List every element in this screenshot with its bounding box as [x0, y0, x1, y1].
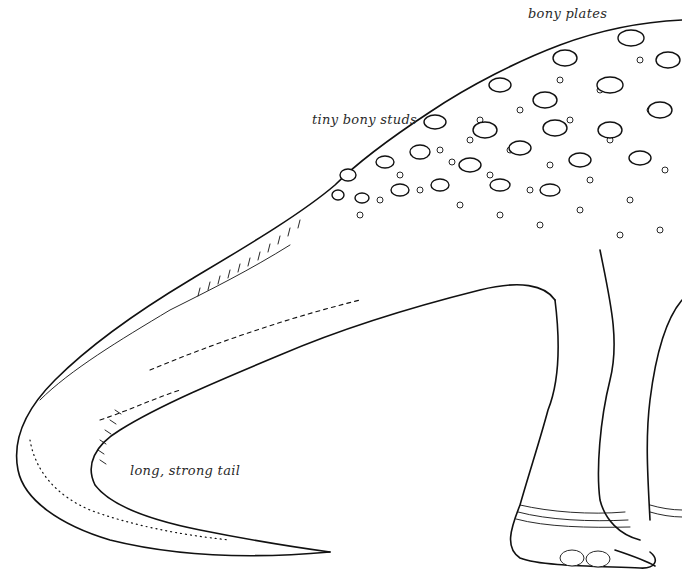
- hind-leg: [511, 250, 656, 568]
- other-leg: [647, 300, 682, 520]
- body-outline: [17, 20, 682, 556]
- back-hatching: [98, 220, 300, 464]
- label-long-strong-tail: long, strong tail: [130, 463, 240, 478]
- label-bony-plates: bony plates: [528, 6, 607, 21]
- dinosaur-illustration: [0, 0, 682, 583]
- label-tiny-bony-studs: tiny bony studs: [312, 112, 417, 127]
